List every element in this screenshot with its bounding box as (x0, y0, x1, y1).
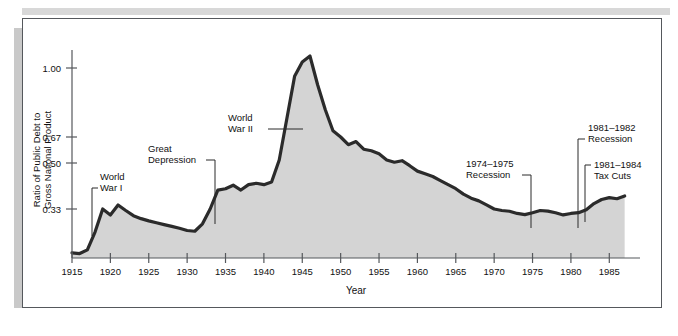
annotation-recession-1974-1975-line2: Recession (466, 169, 510, 180)
x-tick-label: 1980 (560, 266, 581, 277)
y-axis-title: Ratio of Public Debt to Gross National P… (31, 111, 53, 210)
annotation-recession-1981-1982-line1: 1981–1982 (588, 122, 636, 133)
x-tick-label: 1985 (599, 266, 620, 277)
x-tick-label: 1970 (484, 266, 505, 277)
y-axis-title-line2: Gross National Product (42, 111, 53, 210)
annotation-recession-1974-1975-line1: 1974–1975 (466, 158, 514, 169)
y-axis-title-line1: Ratio of Public Debt to (31, 113, 42, 208)
x-tick-label: 1955 (368, 266, 389, 277)
annotation-great-depression: Great Depression (148, 143, 215, 224)
annotation-world-war-ii-line2: War II (228, 123, 253, 134)
x-tick-label: 1945 (292, 266, 313, 277)
x-tick-label: 1920 (100, 266, 121, 277)
x-tick-label: 1925 (138, 266, 159, 277)
annotation-great-depression-line2: Depression (148, 154, 196, 165)
x-tick-label: 1975 (522, 266, 543, 277)
x-tick-label: 1960 (407, 266, 428, 277)
x-tick-label: 1940 (253, 266, 274, 277)
x-tick-label: 1965 (445, 266, 466, 277)
annotation-tax-cuts-1981-1984-line2: Tax Cuts (594, 170, 631, 181)
figure-container: 1.000.670.500.33 19151920192519301935194… (0, 0, 678, 336)
annotation-world-war-i-line1: World (100, 171, 125, 182)
debt-to-gnp-area-chart: 1.000.670.500.33 19151920192519301935194… (0, 0, 678, 336)
x-axis-title: Year (346, 285, 367, 296)
annotation-great-depression-line1: Great (148, 143, 172, 154)
annotation-world-war-i-line2: War I (100, 182, 122, 193)
x-tick-label: 1930 (177, 266, 198, 277)
x-tick-label: 1915 (61, 266, 82, 277)
x-tick-label: 1950 (330, 266, 351, 277)
y-tick-label: 1.00 (43, 63, 62, 74)
x-tick-label: 1935 (215, 266, 236, 277)
annotation-recession-1981-1982-line2: Recession (588, 133, 632, 144)
annotation-world-war-ii-line1: World (228, 112, 253, 123)
annotation-tax-cuts-1981-1984-line1: 1981–1984 (594, 159, 642, 170)
